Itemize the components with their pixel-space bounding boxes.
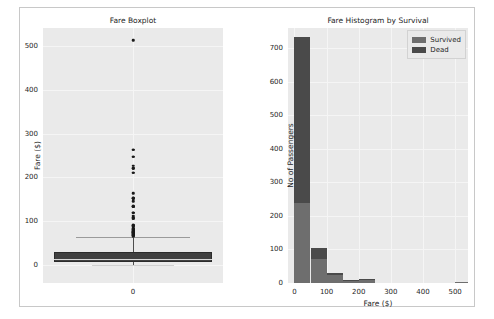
histogram-plot-area	[288, 28, 468, 283]
histogram-ytick: 600	[270, 78, 283, 86]
histogram-axes: Fare Histogram by Survival 0100200300400…	[288, 28, 468, 283]
boxplot-outlier	[132, 149, 135, 152]
histogram-xtick: 400	[416, 288, 429, 296]
legend-swatch-dead	[412, 47, 426, 53]
legend-item[interactable]: Dead	[412, 45, 461, 54]
boxplot-outlier	[132, 156, 135, 159]
boxplot-outlier	[132, 39, 135, 42]
histogram-bar-survived	[294, 203, 310, 283]
legend-label: Dead	[430, 46, 448, 54]
boxplot-outlier	[132, 235, 135, 238]
histogram-xtick: 200	[352, 288, 365, 296]
boxplot-ytick: 0	[34, 261, 38, 269]
boxplot-cap-lower	[92, 265, 174, 266]
histogram-bar-dead	[311, 248, 327, 259]
histogram-bar-dead	[294, 37, 310, 203]
histogram-bar-survived	[327, 275, 343, 283]
legend-label: Survived	[430, 36, 461, 44]
histogram-ytick: 300	[270, 178, 283, 186]
legend-item[interactable]: Survived	[412, 35, 461, 44]
boxplot-ytick: 400	[25, 86, 38, 94]
boxplot-whisker-upper	[133, 237, 134, 252]
histogram-ytick: 100	[270, 245, 283, 253]
histogram-bar-survived	[359, 280, 375, 283]
histogram-bar-dead	[359, 279, 375, 280]
boxplot-axes: Fare Boxplot 0100200300400500 0 Fare ($)	[43, 28, 223, 283]
legend-swatch-survived	[412, 37, 426, 43]
histogram-xtick: 500	[448, 288, 461, 296]
boxplot-ylabel: Fare ($)	[33, 115, 42, 195]
boxplot-outlier	[132, 218, 135, 221]
boxplot-box	[54, 252, 212, 262]
histogram-bar-survived	[455, 282, 468, 283]
boxplot-outlier	[132, 200, 135, 203]
boxplot-outlier	[132, 167, 135, 170]
matplotlib-figure: Fare Boxplot 0100200300400500 0 Fare ($)…	[0, 0, 494, 319]
histogram-bar-survived	[311, 259, 327, 283]
boxplot-median	[54, 259, 212, 260]
boxplot-outlier	[132, 192, 135, 195]
histogram-ytick: 0	[279, 279, 283, 287]
boxplot-plot-area	[43, 28, 223, 283]
boxplot-outlier	[132, 171, 135, 174]
histogram-ylabel: No of Passengers	[286, 90, 295, 220]
histogram-ytick: 500	[270, 111, 283, 119]
histogram-title: Fare Histogram by Survival	[288, 16, 468, 25]
boxplot-outlier	[132, 205, 135, 208]
histogram-bar-dead	[343, 280, 359, 281]
histogram-bar-dead	[327, 273, 343, 275]
histogram-legend: SurvivedDead	[407, 30, 466, 59]
histogram-ytick: 200	[270, 212, 283, 220]
boxplot-ytick: 100	[25, 217, 38, 225]
boxplot-title: Fare Boxplot	[43, 16, 223, 25]
histogram-xlabel: Fare ($)	[288, 299, 468, 308]
histogram-xtick: 300	[384, 288, 397, 296]
histogram-ytick: 400	[270, 145, 283, 153]
histogram-xtick: 0	[292, 288, 296, 296]
histogram-xtick: 100	[320, 288, 333, 296]
histogram-ytick: 700	[270, 44, 283, 52]
boxplot-xtick: 0	[131, 288, 135, 296]
boxplot-ytick: 500	[25, 42, 38, 50]
